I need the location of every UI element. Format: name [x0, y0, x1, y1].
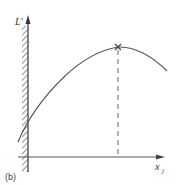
vertical-axis-arrow-icon [26, 15, 31, 24]
x-axis-label-main: x [154, 161, 160, 172]
concave-curve [18, 47, 167, 142]
y-axis-label: L′ [14, 16, 24, 27]
hatched-wall [22, 26, 28, 172]
diagram-figure: L′ x j (b) [0, 0, 181, 185]
horizontal-axis-arrow-icon [156, 155, 165, 160]
panel-label: (b) [5, 172, 16, 182]
x-axis-label-subscript: j [161, 167, 164, 175]
x-axis-label: x j [154, 161, 164, 175]
